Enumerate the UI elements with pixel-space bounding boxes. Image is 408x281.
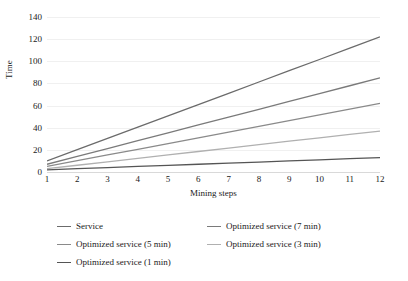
- x-axis-tick: 6: [196, 175, 201, 184]
- legend-line-swatch: [57, 262, 71, 263]
- x-axis-tick: 1: [45, 175, 50, 184]
- legend-line-swatch: [207, 226, 221, 227]
- legend-line-swatch: [207, 244, 221, 245]
- x-axis-tick: 12: [376, 175, 385, 184]
- x-axis-tick: 2: [75, 175, 80, 184]
- y-axis-tick: 0: [38, 168, 43, 177]
- series-line: [47, 37, 380, 161]
- x-axis-tick: 11: [345, 175, 354, 184]
- legend-item[interactable]: Optimized service (3 min): [207, 239, 357, 250]
- x-axis-tick: 9: [287, 175, 292, 184]
- legend-row: Optimized service (1 min): [57, 257, 357, 268]
- y-axis-tick: 80: [33, 79, 42, 88]
- series-line: [47, 131, 380, 169]
- legend-item[interactable]: Service: [57, 221, 207, 232]
- legend-row: ServiceOptimized service (7 min): [57, 221, 357, 232]
- gridline: [47, 172, 380, 173]
- legend-label: Service: [76, 221, 103, 232]
- y-axis-tick: 100: [29, 57, 43, 66]
- x-axis-tick-labels: 123456789101112: [47, 175, 380, 189]
- x-axis-title: Mining steps: [47, 188, 380, 198]
- y-axis-tick: 40: [33, 123, 42, 132]
- series-lines: [47, 17, 380, 172]
- x-axis-tick: 7: [226, 175, 231, 184]
- legend-label: Optimized service (3 min): [226, 239, 321, 250]
- legend-item[interactable]: Optimized service (1 min): [57, 257, 207, 268]
- series-line: [47, 158, 380, 170]
- line-chart-figure: Time 020406080100120140 123456789101112 …: [0, 0, 408, 281]
- chart-legend: ServiceOptimized service (7 min)Optimize…: [57, 221, 357, 275]
- series-line: [47, 78, 380, 164]
- y-axis-tick: 140: [29, 13, 43, 22]
- y-axis-tick-labels: 020406080100120140: [0, 0, 47, 189]
- y-axis-tick: 20: [33, 145, 42, 154]
- x-axis-tick: 4: [136, 175, 141, 184]
- legend-label: Optimized service (5 min): [76, 239, 171, 250]
- legend-label: Optimized service (1 min): [76, 257, 171, 268]
- legend-line-swatch: [57, 226, 71, 227]
- series-line: [47, 103, 380, 166]
- x-axis-tick: 3: [105, 175, 110, 184]
- x-axis-tick: 5: [166, 175, 171, 184]
- plot-area: [47, 17, 380, 172]
- legend-label: Optimized service (7 min): [226, 221, 321, 232]
- y-axis-tick: 60: [33, 101, 42, 110]
- legend-item[interactable]: Optimized service (7 min): [207, 221, 357, 232]
- x-axis-tick: 8: [257, 175, 262, 184]
- x-axis-tick: 10: [315, 175, 324, 184]
- y-axis-tick: 120: [29, 35, 43, 44]
- legend-item[interactable]: Optimized service (5 min): [57, 239, 207, 250]
- legend-line-swatch: [57, 244, 71, 245]
- legend-row: Optimized service (5 min)Optimized servi…: [57, 239, 357, 250]
